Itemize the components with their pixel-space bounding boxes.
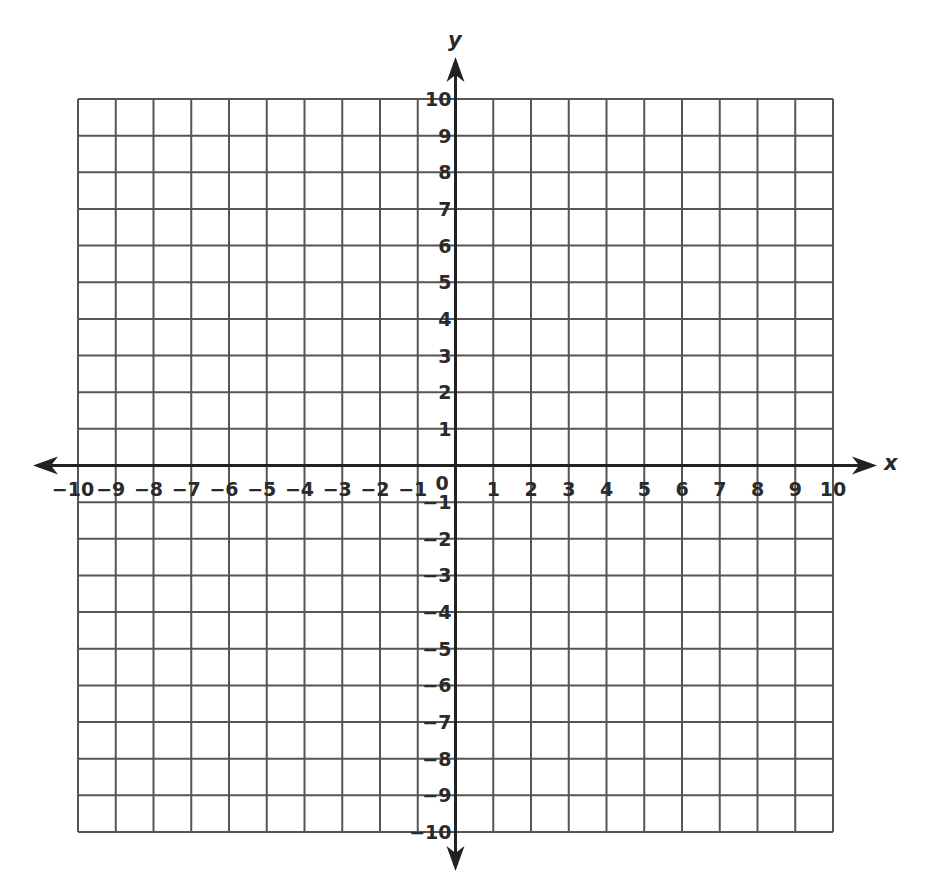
x-tick-label: −6 xyxy=(209,478,238,500)
y-tick-label: −1 xyxy=(422,491,451,513)
y-tick-label: 2 xyxy=(438,381,451,403)
y-tick-label: 6 xyxy=(438,235,451,257)
y-tick-label: −7 xyxy=(422,711,451,733)
x-tick-label: 4 xyxy=(600,478,613,500)
y-tick-label: −2 xyxy=(422,528,451,550)
x-tick-label: 5 xyxy=(638,478,651,500)
x-tick-label: 9 xyxy=(789,478,802,500)
coordinate-plane: −10−9−8−7−6−5−4−3−2−112345678910 1098765… xyxy=(0,0,929,887)
x-tick-label: 6 xyxy=(675,478,688,500)
x-tick-label: 3 xyxy=(562,478,575,500)
x-tick-label: −8 xyxy=(134,478,163,500)
origin-label: 0 xyxy=(436,472,449,494)
x-tick-label: 2 xyxy=(524,478,537,500)
x-tick-label: −4 xyxy=(285,478,314,500)
y-tick-label: 4 xyxy=(438,308,451,330)
x-tick-label: 8 xyxy=(751,478,764,500)
y-tick-label: −9 xyxy=(422,784,451,806)
y-tick-label: 9 xyxy=(438,125,451,147)
y-tick-label: 8 xyxy=(438,161,451,183)
y-tick-label: −10 xyxy=(409,821,451,843)
y-tick-label: 5 xyxy=(438,271,451,293)
x-tick-label: −3 xyxy=(323,478,352,500)
y-tick-label: −4 xyxy=(422,601,451,623)
y-tick-label: −5 xyxy=(422,638,451,660)
y-tick-label: −8 xyxy=(422,748,451,770)
y-tick-label: 1 xyxy=(438,418,451,440)
y-tick-label: 3 xyxy=(438,345,451,367)
y-axis-label: y xyxy=(448,28,463,52)
x-tick-label: −5 xyxy=(247,478,276,500)
y-tick-label: 7 xyxy=(438,198,451,220)
x-tick-label: 1 xyxy=(487,478,500,500)
x-tick-label: −2 xyxy=(360,478,389,500)
axes xyxy=(33,57,877,871)
x-axis-label: x xyxy=(883,451,899,475)
y-tick-label: 10 xyxy=(425,88,451,110)
x-tick-label: −10 xyxy=(52,478,94,500)
y-tick-label: −6 xyxy=(422,674,451,696)
x-tick-label: −7 xyxy=(172,478,201,500)
x-tick-label: 10 xyxy=(820,478,846,500)
y-tick-label: −3 xyxy=(422,564,451,586)
x-tick-label: 7 xyxy=(713,478,726,500)
x-tick-label: −9 xyxy=(96,478,125,500)
